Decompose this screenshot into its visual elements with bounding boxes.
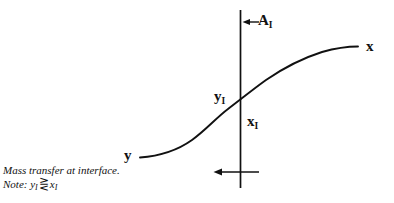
interface-label-y-subscript: I — [222, 96, 226, 106]
interface-label-y-base: y — [214, 88, 222, 104]
flux-arrow-bottom-head — [214, 168, 223, 175]
caption-note-relation: ⋛ — [38, 177, 50, 191]
caption-line-2: Note: yI⋛xI — [3, 178, 120, 195]
interface-label-x-base: x — [247, 113, 255, 129]
flux-label-a-base: A — [258, 12, 269, 28]
flux-label-a-subscript: I — [269, 20, 273, 30]
flux-label-a-i: AI — [258, 13, 273, 30]
interface-label-y-i: yI — [214, 89, 225, 106]
caption-note-x-subscript: I — [55, 183, 58, 192]
caption-note-prefix: Note: — [3, 178, 30, 190]
curve-label-y: y — [124, 148, 132, 163]
curve-label-y-text: y — [124, 147, 132, 163]
interface-label-x-subscript: I — [255, 121, 259, 131]
interface-label-x-i: xI — [247, 114, 258, 131]
figure-caption: Mass transfer at interface. Note: yI⋛xI — [3, 164, 120, 194]
curve-label-x-text: x — [366, 38, 374, 54]
mass-transfer-interface-figure: y x yI xI AI Mass transfer at interface.… — [0, 0, 394, 203]
concentration-profile-curve — [140, 47, 358, 158]
curve-label-x: x — [366, 39, 374, 54]
flux-arrow-top-head — [243, 19, 251, 25]
caption-line-1: Mass transfer at interface. — [3, 164, 120, 178]
